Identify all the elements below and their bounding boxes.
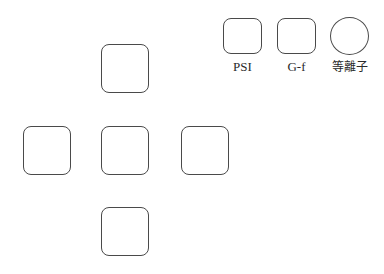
legend-psi-label: PSI <box>223 60 262 74</box>
cross-cell-center <box>101 126 149 175</box>
legend-psi-square <box>223 18 262 54</box>
cross-cell-top <box>101 44 149 93</box>
legend-gf-label: G-f <box>277 60 316 74</box>
cross-cell-right <box>181 126 229 175</box>
legend-plasma-circle <box>330 17 369 55</box>
legend-plasma-label: 等離子 <box>324 60 376 74</box>
cross-cell-bottom <box>101 207 149 256</box>
cross-cell-left <box>23 126 71 175</box>
legend-gf-square <box>277 18 316 54</box>
